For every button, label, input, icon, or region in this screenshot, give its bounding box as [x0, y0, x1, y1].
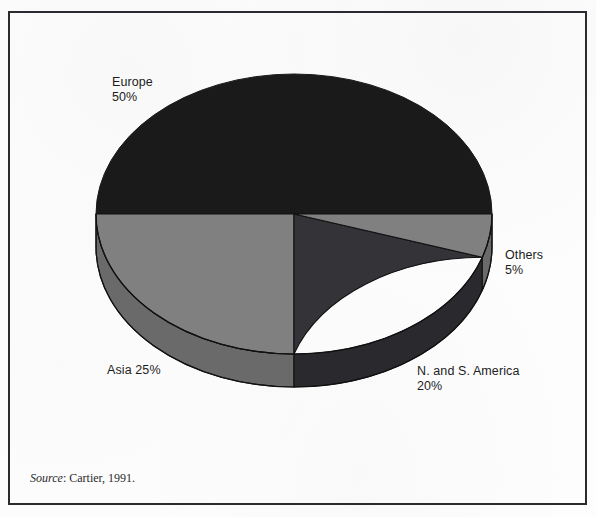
- slice-label-america: N. and S. America20%: [417, 364, 519, 394]
- slice-label-asia: Asia 25%: [107, 363, 161, 378]
- slice-label-europe: Europe50%: [112, 75, 153, 105]
- slice-label-others-value: 5%: [505, 263, 523, 277]
- source-note-text: : Cartier, 1991.: [63, 471, 135, 485]
- pie-chart: Europe50% Others5% N. and S. America20% …: [0, 0, 596, 517]
- figure-page: Europe50% Others5% N. and S. America20% …: [0, 0, 596, 517]
- slice-label-asia-name: Asia 25%: [107, 363, 161, 377]
- source-note: Source: Cartier, 1991.: [30, 471, 135, 486]
- source-note-prefix: Source: [30, 471, 63, 485]
- slice-label-others: Others5%: [505, 248, 543, 278]
- slice-label-europe-name: Europe: [112, 75, 153, 89]
- slice-europe[interactable]: [96, 74, 492, 214]
- slice-asia[interactable]: [96, 214, 294, 354]
- slice-label-america-name: N. and S. America: [417, 364, 519, 378]
- pie-top-face: [96, 74, 492, 354]
- slice-label-europe-value: 50%: [112, 90, 137, 104]
- slice-label-america-value: 20%: [417, 379, 442, 393]
- slice-label-others-name: Others: [505, 248, 543, 262]
